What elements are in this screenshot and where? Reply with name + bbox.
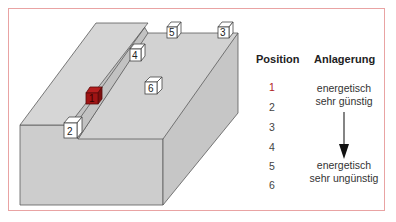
position-1: 1 <box>262 81 282 93</box>
unfavorable-description: energetisch sehr ungünstig <box>299 159 389 185</box>
position-header: Position <box>256 53 299 65</box>
position-6: 6 <box>262 179 282 191</box>
legend: Position Anlagerung 1 2 3 4 5 6 energeti… <box>0 0 396 222</box>
position-4: 4 <box>262 141 282 153</box>
position-5: 5 <box>262 160 282 172</box>
position-3: 3 <box>262 121 282 133</box>
favorable-description: energetisch sehr günstig <box>299 82 389 108</box>
position-2: 2 <box>262 101 282 113</box>
down-arrow-icon <box>338 112 350 160</box>
anlagerung-header: Anlagerung <box>314 53 375 65</box>
